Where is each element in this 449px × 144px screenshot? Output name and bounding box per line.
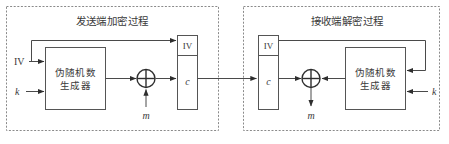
- receiver-c-cell-label: c: [266, 76, 271, 87]
- stream-cipher-diagram: 发送端加密过程 伪随机数 生成器 IV c IV k m 接收: [0, 0, 449, 144]
- receiver-prng-label-line1: 伪随机数: [355, 67, 396, 78]
- sender-prng-box: [46, 48, 106, 110]
- receiver-panel-title: 接收端解密过程: [311, 15, 384, 27]
- sender-prng-label-line1: 伪随机数: [55, 67, 96, 78]
- receiver-plaintext-label: m: [307, 110, 314, 121]
- sender-panel-title: 发送端加密过程: [76, 15, 149, 27]
- sender-plaintext-label: m: [142, 110, 149, 121]
- sender-iv-input-label: IV: [14, 56, 25, 67]
- receiver-key-input-label: k: [432, 86, 437, 97]
- diagram-canvas: 发送端加密过程 伪随机数 生成器 IV c IV k m 接收: [0, 0, 449, 144]
- sender-iv-cell-label: IV: [183, 41, 193, 51]
- sender-prng-label-line2: 生成器: [60, 80, 91, 91]
- receiver-prng-label-line2: 生成器: [360, 80, 391, 91]
- receiver-prng-box: [346, 48, 406, 110]
- sender-key-input-label: k: [15, 86, 20, 97]
- receiver-iv-cell-label: IV: [264, 41, 274, 51]
- sender-c-cell-label: c: [185, 76, 190, 87]
